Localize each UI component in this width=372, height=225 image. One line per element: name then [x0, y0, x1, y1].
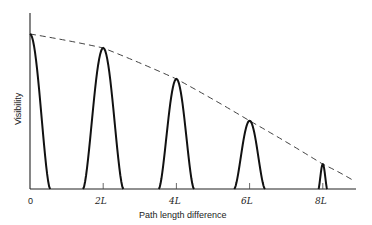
tick-label-2L: 2L — [94, 196, 107, 206]
envelope-curve — [30, 34, 352, 180]
x-ticks — [103, 183, 323, 189]
peak-curve — [234, 121, 265, 189]
tick-label-6L: 6L — [241, 196, 253, 206]
tick-label-8L: 8L — [315, 196, 327, 206]
peak-curve — [159, 79, 194, 189]
tick-label-0: 0 — [28, 196, 33, 206]
tick-label-4L: 4L — [168, 196, 181, 206]
peak-curve — [83, 48, 123, 189]
x-axis-label: Path length difference — [139, 210, 226, 220]
visibility-chart: 0 2L 4L 6L 8L Path length difference Vis… — [0, 0, 372, 225]
visibility-peaks — [30, 34, 327, 189]
y-axis-label: Visibility — [13, 92, 23, 125]
peak-curve — [30, 34, 50, 189]
